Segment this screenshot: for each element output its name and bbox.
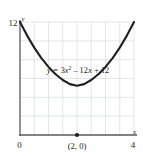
x-tick-4: 4 <box>131 140 136 150</box>
equation-annotation: y=3x2– 12x+ 12 <box>46 65 109 75</box>
ghost-line <box>47 0 48 8</box>
vertex-marker <box>75 133 79 137</box>
equation-lhs: y <box>46 66 51 75</box>
equation-equals: = <box>53 66 58 75</box>
parabola-figure: y x 12 0 4 (2, 0) y=3x2– 12x+ 12 <box>0 0 143 156</box>
equation-exponent: 2 <box>68 65 71 71</box>
y-tick-12: 12 <box>9 18 18 28</box>
equation-text: y=3x2– 12x+ 12 <box>46 65 109 75</box>
equation-variable-2: x <box>87 66 92 75</box>
vertex-coordinate-label: (2, 0) <box>68 141 87 151</box>
graph-canvas: y x 12 0 4 (2, 0) y=3x2– 12x+ 12 <box>0 0 143 156</box>
x-axis-label: x <box>132 128 137 136</box>
scan-artifact-text <box>47 0 48 8</box>
equation-tail: + 12 <box>94 66 109 75</box>
equation-middle: – 12 <box>72 66 87 75</box>
x-tick-0: 0 <box>17 140 22 150</box>
